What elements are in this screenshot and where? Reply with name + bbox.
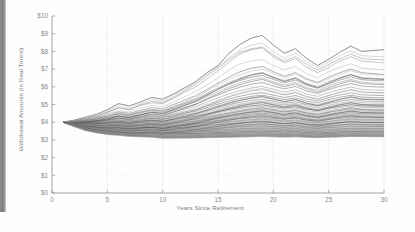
svg-text:20: 20 [270,196,278,203]
y-tick-labels: $0$1$2$3$4$5$6$7$8$9$10 [37,12,48,196]
svg-text:$4: $4 [41,118,49,125]
x-axis-title: Years Since Retirement [140,204,280,211]
svg-text:5: 5 [106,196,110,203]
svg-text:15: 15 [214,196,222,203]
svg-text:30: 30 [380,196,388,203]
svg-text:10: 10 [159,196,167,203]
svg-text:25: 25 [325,196,333,203]
y-axis-title: Withdrawal Amounts (in Real Terms) [17,40,24,160]
svg-text:$8: $8 [41,48,49,55]
svg-text:0: 0 [50,196,54,203]
svg-text:$7: $7 [41,65,49,72]
svg-text:$2: $2 [41,154,49,161]
x-tick-labels: 051015202530 [50,196,388,203]
svg-text:$1: $1 [41,172,49,179]
svg-text:$3: $3 [41,136,49,143]
chart-figure: 051015202530 $0$1$2$3$4$5$6$7$8$9$10 Wit… [0,0,415,232]
svg-text:$6: $6 [41,83,49,90]
svg-text:$0: $0 [41,189,49,196]
svg-text:$5: $5 [41,101,49,108]
svg-text:$10: $10 [37,12,48,19]
plot-canvas: 051015202530 $0$1$2$3$4$5$6$7$8$9$10 [0,0,415,232]
svg-text:$9: $9 [41,30,49,37]
